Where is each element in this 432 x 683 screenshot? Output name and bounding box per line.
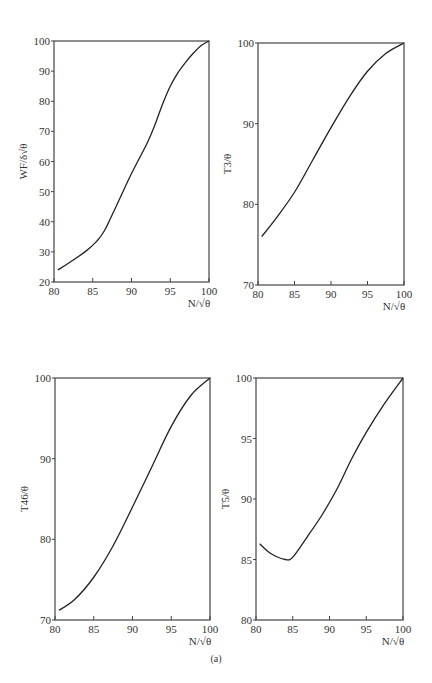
chart-t46: 80859095100708090100N/√θT46/θ: [18, 372, 219, 647]
figure-canvas: 808590951002030405060708090100N/√θWF/δ√θ…: [0, 0, 432, 683]
data-curve: [59, 378, 210, 610]
x-tick-label: 80: [253, 288, 265, 300]
y-tick-label: 100: [238, 37, 255, 49]
y-tick-label: 100: [35, 372, 52, 384]
chart-wf: 808590951002030405060708090100N/√θWF/δ√θ: [17, 35, 218, 309]
y-tick-label: 90: [39, 65, 51, 77]
y-tick-label: 80: [241, 614, 253, 626]
data-curve: [262, 43, 404, 237]
x-tick-label: 85: [87, 285, 99, 297]
y-tick-label: 80: [39, 95, 51, 107]
y-tick-label: 80: [243, 198, 255, 210]
y-tick-label: 100: [34, 35, 51, 47]
x-tick-label: 90: [326, 288, 338, 300]
x-tick-label: 90: [126, 285, 138, 297]
plot-frame: [256, 378, 403, 620]
x-tick-label: 100: [396, 288, 413, 300]
x-tick-label: 95: [361, 623, 373, 635]
figure-caption: (a): [210, 653, 221, 665]
y-tick-label: 95: [241, 433, 253, 445]
y-tick-label: 50: [39, 186, 51, 198]
x-axis-label: N/√θ: [383, 300, 405, 312]
y-tick-label: 90: [241, 493, 253, 505]
x-tick-label: 85: [289, 288, 301, 300]
x-tick-label: 85: [88, 623, 100, 635]
y-axis-label: T3/θ: [221, 154, 233, 175]
y-tick-label: 70: [243, 279, 255, 291]
y-tick-label: 90: [40, 453, 52, 465]
x-tick-label: 90: [127, 623, 139, 635]
x-tick-label: 95: [362, 288, 374, 300]
y-tick-label: 90: [243, 118, 255, 130]
y-tick-label: 60: [39, 156, 51, 168]
x-tick-label: 85: [287, 623, 299, 635]
x-tick-label: 90: [324, 623, 336, 635]
x-tick-label: 95: [166, 623, 178, 635]
data-curve: [58, 41, 209, 270]
y-axis-label: T46/θ: [18, 486, 30, 512]
data-curve: [260, 378, 403, 560]
x-tick-label: 80: [49, 285, 61, 297]
plot-frame: [258, 43, 404, 285]
chart-t3: 80859095100708090100N/√θT3/θ: [221, 37, 413, 312]
y-axis-label: T5/θ: [219, 489, 231, 510]
y-tick-label: 100: [236, 372, 253, 384]
x-tick-label: 100: [202, 623, 219, 635]
y-tick-label: 70: [40, 614, 52, 626]
plot-frame: [55, 378, 210, 620]
y-tick-label: 70: [39, 125, 51, 137]
plot-frame: [54, 41, 209, 282]
y-axis-label: WF/δ√θ: [17, 143, 29, 179]
x-tick-label: 80: [251, 623, 263, 635]
x-tick-label: 100: [395, 623, 412, 635]
x-axis-label: N/√θ: [189, 635, 211, 647]
x-tick-label: 95: [165, 285, 177, 297]
x-axis-label: N/√θ: [188, 297, 210, 309]
chart-t5: 8085909510080859095100N/√θT5/θ: [219, 372, 412, 647]
y-tick-label: 20: [39, 276, 51, 288]
y-tick-label: 30: [39, 246, 51, 258]
x-tick-label: 100: [201, 285, 218, 297]
x-tick-label: 80: [50, 623, 62, 635]
y-tick-label: 85: [241, 554, 253, 566]
y-tick-label: 40: [39, 216, 51, 228]
y-tick-label: 80: [40, 533, 52, 545]
x-axis-label: N/√θ: [382, 635, 404, 647]
